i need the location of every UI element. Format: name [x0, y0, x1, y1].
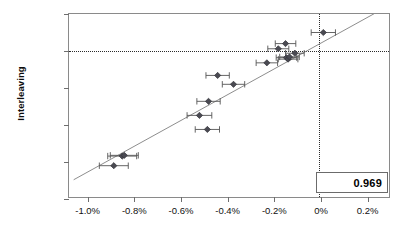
data-point-marker [111, 163, 117, 169]
data-point-marker [320, 29, 326, 35]
data-point-marker [282, 41, 288, 47]
y-axis-title: Interleaving [15, 34, 26, 154]
data-point-marker [205, 98, 211, 104]
data-point-marker [230, 81, 236, 87]
data-point-marker [204, 126, 210, 132]
x-tick [228, 197, 229, 202]
x-tick [321, 197, 322, 202]
y-tick [64, 162, 69, 163]
y-tick [64, 14, 69, 15]
y-tick [64, 88, 69, 89]
y-tick [64, 51, 69, 52]
x-tick [134, 197, 135, 202]
chart-root: Interleaving 5.0%0%-5.0%-10.0%-15.0%-20.… [0, 0, 399, 234]
markers-group [111, 29, 327, 168]
error-bars-group [99, 29, 335, 169]
x-tick-label: 0.2% [338, 205, 398, 216]
x-tick [274, 197, 275, 202]
data-point-marker [264, 60, 270, 66]
plot-area: 5.0%0%-5.0%-10.0%-15.0%-20.0% -1.0%-0.8%… [68, 13, 390, 198]
data-point-marker [275, 46, 281, 52]
data-point-marker [196, 112, 202, 118]
y-tick [64, 199, 69, 200]
x-tick [181, 197, 182, 202]
correlation-box: 0.969 [316, 172, 388, 193]
data-layer [69, 14, 389, 197]
correlation-value: 0.969 [353, 177, 382, 189]
y-tick [64, 125, 69, 126]
x-tick [368, 197, 369, 202]
plot-inner [69, 14, 389, 197]
data-point-marker [215, 72, 221, 78]
x-tick [88, 197, 89, 202]
